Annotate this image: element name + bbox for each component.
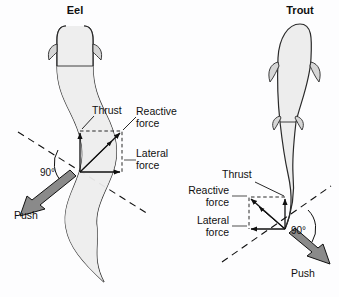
figure-canvas: Eel Thrust Reactive for bbox=[0, 0, 339, 297]
eel-push-label: Push bbox=[14, 209, 38, 221]
trout-angle-label: 90° bbox=[291, 225, 306, 236]
eel-reactive-force-label-line1: Reactive bbox=[136, 105, 177, 117]
eel-thrust-label: Thrust bbox=[92, 104, 122, 116]
eel-lateral-force-label-line1: Lateral bbox=[136, 147, 168, 159]
trout-thrust-label: Thrust bbox=[222, 168, 252, 180]
trout-reactive-force-label-line1: Reactive bbox=[188, 184, 229, 196]
trout-push-label: Push bbox=[291, 267, 315, 279]
eel-angle-label: 90° bbox=[40, 167, 55, 178]
eel-reactive-force-label-line2: force bbox=[136, 117, 160, 129]
eel-title: Eel bbox=[67, 4, 84, 16]
trout-lateral-force-label-line1: Lateral bbox=[197, 214, 229, 226]
eel-lateral-force-label-line2: force bbox=[136, 159, 160, 171]
trout-reactive-force-label-line2: force bbox=[206, 196, 230, 208]
trout-lateral-force-label-line2: force bbox=[206, 226, 230, 238]
trout-title: Trout bbox=[286, 4, 314, 16]
